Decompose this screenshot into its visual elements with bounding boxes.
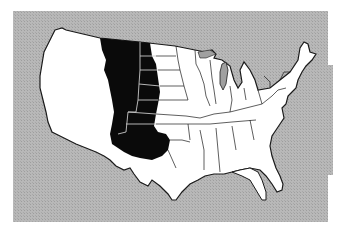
us-map xyxy=(0,0,337,227)
